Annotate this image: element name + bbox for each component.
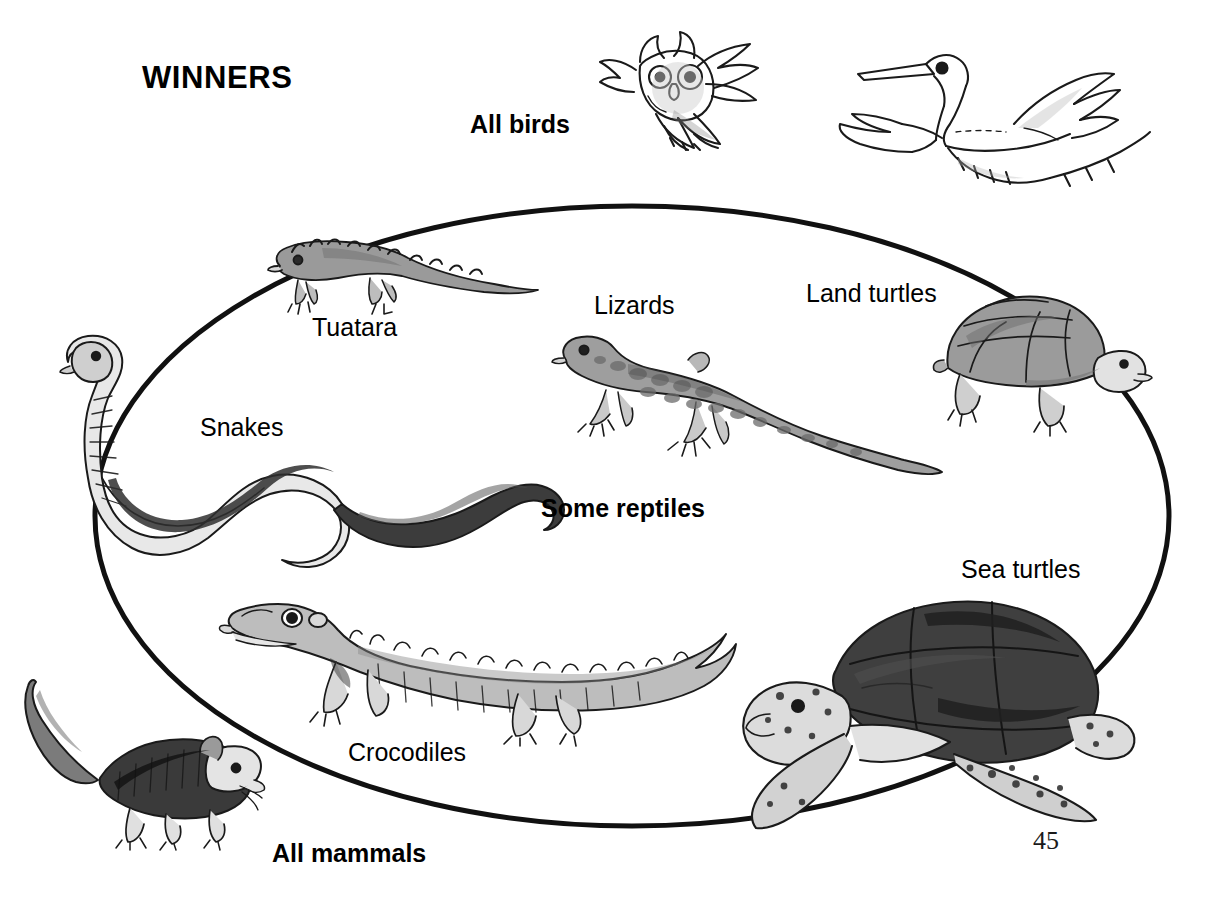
lizard-illustration xyxy=(548,330,948,490)
label-crocodiles: Crocodiles xyxy=(348,740,466,765)
group-label-all-mammals: All mammals xyxy=(272,841,426,866)
shrew-illustration xyxy=(14,660,264,850)
group-label-all-birds: All birds xyxy=(470,112,570,137)
heron-illustration xyxy=(838,28,1158,208)
diagram-page: WINNERS All birds Some reptiles All mamm… xyxy=(0,0,1218,913)
owl-illustration xyxy=(578,22,768,162)
label-lizards: Lizards xyxy=(594,293,675,318)
land-turtle-illustration xyxy=(930,276,1160,446)
page-title: WINNERS xyxy=(142,62,293,93)
crocodile-illustration xyxy=(218,586,738,746)
page-number: 45 xyxy=(1033,828,1059,854)
label-land-turtles: Land turtles xyxy=(806,281,937,306)
group-label-some-reptiles: Some reptiles xyxy=(541,496,705,521)
label-sea-turtles: Sea turtles xyxy=(961,557,1081,582)
tuatara-illustration xyxy=(262,232,542,322)
sea-turtle-illustration xyxy=(724,578,1144,838)
label-tuatara: Tuatara xyxy=(312,315,397,340)
label-snakes: Snakes xyxy=(200,415,283,440)
